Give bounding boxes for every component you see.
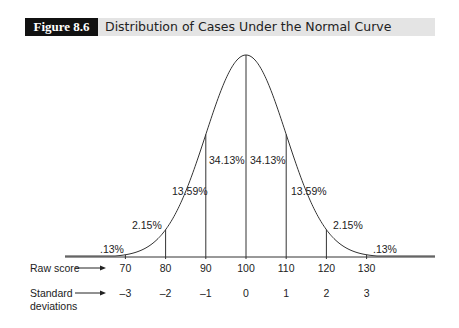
percent-label: 2.15% (333, 219, 363, 231)
sd-tick: 1 (283, 287, 289, 299)
sd-ticks: –3–2–10123 (120, 287, 370, 299)
raw-score-tick: 70 (120, 262, 132, 274)
percent-labels: .13%2.15%13.59%34.13%34.13%13.59%2.15%.1… (100, 154, 397, 255)
percent-label: .13% (100, 243, 124, 255)
raw-score-ticks: 708090100110120130 (120, 262, 376, 274)
sd-tick: 0 (243, 287, 249, 299)
sd-label-line1: Standard (30, 287, 73, 300)
percent-label: 2.15% (132, 219, 162, 231)
raw-score-tick: 90 (200, 262, 212, 274)
sd-tick: 2 (323, 287, 329, 299)
percent-label: 34.13% (209, 154, 245, 166)
percent-label: 13.59% (291, 185, 327, 197)
normal-curve-chart: .13%2.15%13.59%34.13%34.13%13.59%2.15%.1… (0, 0, 459, 328)
raw-score-tick: 80 (160, 262, 172, 274)
raw-score-tick: 120 (318, 262, 336, 274)
sd-tick: –2 (160, 287, 172, 299)
sd-arrow-icon (75, 291, 106, 296)
raw-score-tick: 100 (237, 262, 255, 274)
sd-tick: –3 (120, 287, 132, 299)
sd-tick: 3 (364, 287, 370, 299)
sd-label-line2: deviations (30, 300, 77, 313)
raw-score-tick: 130 (358, 262, 376, 274)
percent-label: 34.13% (250, 154, 286, 166)
sd-tick: –1 (200, 287, 212, 299)
raw-score-tick: 110 (278, 262, 295, 274)
raw-score-label: Raw score (30, 262, 80, 275)
percent-label: 13.59% (172, 185, 208, 197)
percent-label: .13% (373, 243, 397, 255)
